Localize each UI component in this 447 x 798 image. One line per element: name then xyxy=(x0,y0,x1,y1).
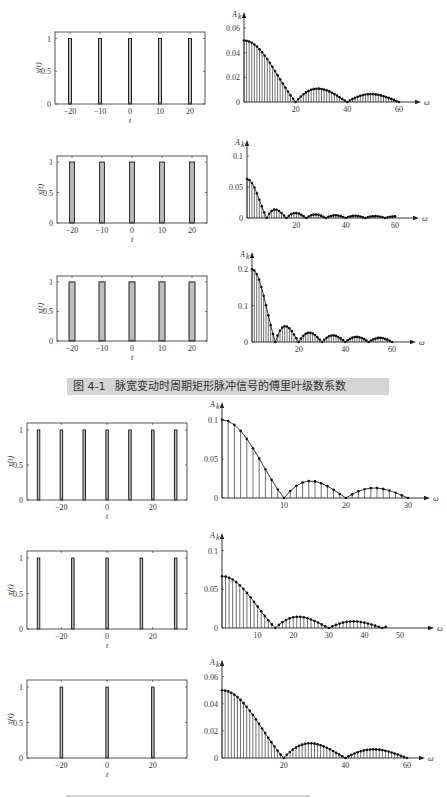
svg-text:1: 1 xyxy=(47,35,51,44)
time-chart-3: −20−100102000.51tx(t) xyxy=(35,272,213,367)
svg-text:0: 0 xyxy=(105,503,109,512)
svg-text:−10: −10 xyxy=(96,226,109,235)
pulse-bar xyxy=(106,430,109,500)
svg-text:20: 20 xyxy=(289,631,297,640)
time-chart-6: −2002000.51tx(t) xyxy=(5,676,193,784)
pulse-bar xyxy=(60,687,63,758)
time-chart-1: −20−100102000.51tx(t) xyxy=(33,28,211,130)
time-plot-svg: −20−100102000.51tx(t) xyxy=(33,28,211,130)
svg-text:k: k xyxy=(241,140,245,149)
svg-text:0: 0 xyxy=(130,226,134,235)
svg-text:−20: −20 xyxy=(66,226,79,235)
svg-text:20: 20 xyxy=(188,344,196,353)
pulse-bar xyxy=(83,430,86,500)
time-plot-svg: −2002000.51tx(t) xyxy=(5,676,193,784)
pulse-bar xyxy=(159,282,165,341)
pulse-bar xyxy=(152,687,155,758)
svg-text:−20: −20 xyxy=(55,761,68,770)
time-plot-svg: −2002000.51tx(t) xyxy=(5,547,193,655)
svg-text:0: 0 xyxy=(214,494,218,503)
svg-text:20: 20 xyxy=(292,221,300,230)
svg-text:0.1: 0.1 xyxy=(208,416,218,425)
pulse-bar xyxy=(106,687,109,758)
svg-text:x(t): x(t) xyxy=(36,184,45,196)
svg-text:0: 0 xyxy=(236,98,240,107)
svg-text:0.2: 0.2 xyxy=(238,265,248,274)
pulse-bar xyxy=(69,39,72,104)
svg-text:30: 30 xyxy=(325,631,333,640)
svg-text:0: 0 xyxy=(239,214,243,223)
svg-text:1: 1 xyxy=(49,278,53,287)
svg-text:0: 0 xyxy=(49,337,53,346)
svg-text:0.04: 0.04 xyxy=(204,700,218,709)
svg-text:0.05: 0.05 xyxy=(204,585,218,594)
svg-text:20: 20 xyxy=(342,501,350,510)
svg-text:0.02: 0.02 xyxy=(226,73,240,82)
svg-text:k: k xyxy=(238,12,242,21)
svg-text:0: 0 xyxy=(128,107,132,116)
svg-text:1: 1 xyxy=(19,554,23,563)
spectrum-chart-2: 20406000.050.1Akω xyxy=(221,140,427,232)
pulse-bar xyxy=(189,39,192,104)
svg-text:10: 10 xyxy=(156,107,164,116)
svg-text:1: 1 xyxy=(19,683,23,692)
spectrum-chart-6: 20406000.020.040.06Akω xyxy=(196,660,433,772)
svg-text:0: 0 xyxy=(19,625,23,634)
svg-text:40: 40 xyxy=(341,345,349,354)
svg-text:0: 0 xyxy=(47,100,51,109)
svg-text:−10: −10 xyxy=(94,107,107,116)
svg-text:x(t): x(t) xyxy=(6,456,15,468)
spectrum-plot-svg: 20406000.020.040.06Akω xyxy=(196,660,433,772)
svg-text:30: 30 xyxy=(404,501,412,510)
pulse-bar xyxy=(106,558,109,629)
pulse-bar xyxy=(129,39,132,104)
time-plot-svg: −2002000.51tx(t) xyxy=(5,419,193,526)
svg-text:0: 0 xyxy=(19,496,23,505)
svg-text:0: 0 xyxy=(19,754,23,763)
svg-text:t: t xyxy=(106,512,109,521)
svg-text:0: 0 xyxy=(49,219,53,228)
spectrum-plot-svg: 102030405000.050.1Akω xyxy=(196,533,442,642)
svg-text:A: A xyxy=(234,138,240,147)
svg-text:40: 40 xyxy=(360,631,368,640)
pulse-bar xyxy=(99,282,105,341)
svg-text:0: 0 xyxy=(244,338,248,347)
svg-text:20: 20 xyxy=(188,226,196,235)
svg-text:ω: ω xyxy=(433,494,439,503)
pulse-bar xyxy=(140,558,143,629)
pulse-bar xyxy=(130,162,135,223)
svg-text:40: 40 xyxy=(343,105,351,114)
pulse-bar xyxy=(129,282,135,341)
svg-text:20: 20 xyxy=(292,105,300,114)
svg-text:10: 10 xyxy=(280,501,288,510)
caption-text: 脉宽变动时周期矩形脉冲信号的傅里叶级数系数 xyxy=(115,380,346,393)
svg-text:60: 60 xyxy=(391,221,399,230)
svg-text:x(t): x(t) xyxy=(36,303,45,315)
svg-text:t: t xyxy=(129,116,132,125)
pulse-bar xyxy=(37,430,40,500)
svg-text:k: k xyxy=(246,252,250,261)
svg-text:0: 0 xyxy=(214,754,218,763)
svg-text:A: A xyxy=(209,400,215,409)
time-chart-5: −2002000.51tx(t) xyxy=(5,547,193,655)
spectrum-chart-4: 10203000.050.1Akω xyxy=(196,402,438,512)
time-plot-svg: −20−100102000.51tx(t) xyxy=(35,272,213,367)
svg-text:t: t xyxy=(131,353,134,362)
svg-text:0.05: 0.05 xyxy=(229,183,243,192)
caption-number: 图 4-1 xyxy=(73,380,105,393)
pulse-bar xyxy=(129,430,132,500)
time-chart-2: −20−100102000.51tx(t) xyxy=(35,152,213,249)
svg-text:50: 50 xyxy=(396,631,404,640)
pulse-bar xyxy=(70,162,75,223)
svg-text:0: 0 xyxy=(214,624,218,633)
svg-text:ω: ω xyxy=(424,98,430,107)
spectrum-chart-3: 20406000.10.2Akω xyxy=(226,252,424,356)
svg-text:ω: ω xyxy=(428,754,434,763)
pulse-bar xyxy=(37,558,40,629)
svg-text:10: 10 xyxy=(158,344,166,353)
svg-text:−20: −20 xyxy=(64,107,77,116)
svg-text:−20: −20 xyxy=(55,503,68,512)
svg-text:0.06: 0.06 xyxy=(226,24,240,33)
svg-text:ω: ω xyxy=(419,338,425,347)
time-plot-svg: −20−100102000.51tx(t) xyxy=(35,152,213,249)
